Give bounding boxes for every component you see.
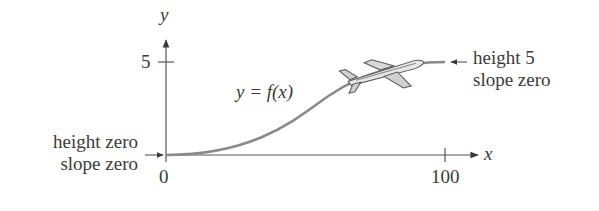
y-axis-label: y <box>160 4 168 26</box>
start-annotation-line2: slope zero <box>30 153 138 175</box>
x-tick-label-0: 0 <box>159 166 169 188</box>
curve-f <box>166 62 445 155</box>
end-annotation-line1: height 5 <box>473 47 551 69</box>
y-tick-label-5: 5 <box>141 51 151 73</box>
end-annotation: height 5 slope zero <box>473 47 551 91</box>
x-tick-label-100: 100 <box>431 166 460 188</box>
diagram-canvas <box>0 0 599 211</box>
end-annotation-line2: slope zero <box>473 69 551 91</box>
airplane-icon <box>339 48 429 102</box>
start-annotation-line1: height zero <box>30 131 138 153</box>
curve-label: y = f(x) <box>236 81 293 103</box>
x-axis-label: x <box>484 143 492 165</box>
start-annotation: height zero slope zero <box>30 131 138 175</box>
